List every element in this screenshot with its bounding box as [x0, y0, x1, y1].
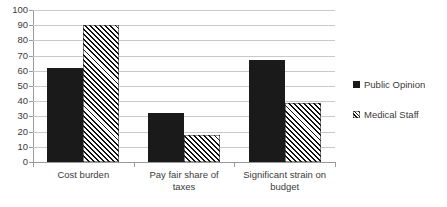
legend-item[interactable]: Medical Staff	[353, 108, 445, 120]
bar-group	[33, 10, 134, 162]
x-axis-category-label: Pay fair share oftaxes	[134, 169, 235, 192]
category-separator-tick	[234, 162, 235, 167]
y-tick-label-10: 10	[2, 142, 28, 152]
chart-legend: Public OpinionMedical Staff	[353, 78, 445, 138]
x-axis-category-label: Significant strain onbudget	[234, 169, 335, 192]
y-tick-label-100: 100	[2, 5, 28, 15]
y-tick-label-30: 30	[2, 111, 28, 121]
bar-group	[234, 10, 335, 162]
bar	[184, 135, 220, 162]
x-axis-category-label-line: Significant strain on	[234, 169, 335, 181]
x-axis-category-label-line: taxes	[134, 181, 235, 193]
y-tick-mark-70	[29, 56, 33, 57]
category-separator-tick	[33, 162, 34, 167]
y-tick-mark-20	[29, 132, 33, 133]
y-tick-mark-90	[29, 25, 33, 26]
y-tick-mark-100	[29, 10, 33, 11]
y-tick-mark-40	[29, 101, 33, 102]
y-tick-mark-10	[29, 147, 33, 148]
y-tick-mark-60	[29, 71, 33, 72]
grouped-bar-chart: 0102030405060708090100 Cost burdenPay fa…	[0, 0, 447, 207]
category-separator-tick	[335, 162, 336, 167]
x-axis-category-label: Cost burden	[33, 169, 134, 181]
bar-group	[134, 10, 235, 162]
y-tick-label-40: 40	[2, 96, 28, 106]
y-tick-mark-50	[29, 86, 33, 87]
legend-item-label: Public Opinion	[364, 79, 425, 90]
y-tick-label-0: 0	[2, 157, 28, 167]
legend-item-label: Medical Staff	[364, 109, 419, 120]
hatched-square-icon	[353, 111, 360, 118]
gridline-0	[33, 162, 335, 163]
x-axis-category-label-line: budget	[234, 181, 335, 193]
legend-item[interactable]: Public Opinion	[353, 78, 445, 90]
y-tick-label-70: 70	[2, 51, 28, 61]
y-tick-label-60: 60	[2, 66, 28, 76]
bar	[83, 25, 119, 162]
bar	[249, 60, 285, 162]
solid-black-square-icon	[353, 81, 360, 88]
y-tick-label-80: 80	[2, 35, 28, 45]
y-tick-mark-80	[29, 40, 33, 41]
y-tick-label-90: 90	[2, 20, 28, 30]
y-axis-tick-labels: 0102030405060708090100	[0, 0, 28, 207]
bar	[47, 68, 83, 162]
y-tick-label-50: 50	[2, 81, 28, 91]
y-tick-label-20: 20	[2, 127, 28, 137]
plot-area	[33, 10, 335, 162]
bar	[148, 113, 184, 162]
x-axis-category-label-line: Cost burden	[33, 169, 134, 181]
y-tick-mark-0	[29, 162, 33, 163]
y-tick-mark-30	[29, 116, 33, 117]
bar	[285, 103, 321, 162]
category-separator-tick	[134, 162, 135, 167]
x-axis-category-label-line: Pay fair share of	[134, 169, 235, 181]
